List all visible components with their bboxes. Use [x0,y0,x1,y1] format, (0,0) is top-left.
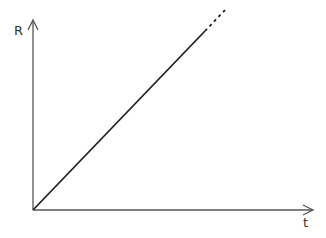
y-axis-label: R [14,23,23,38]
x-axis-label: t [303,215,308,230]
solid-line [33,31,205,210]
proportional-line-chart: R t [0,0,326,238]
dashed-extension [205,8,227,31]
